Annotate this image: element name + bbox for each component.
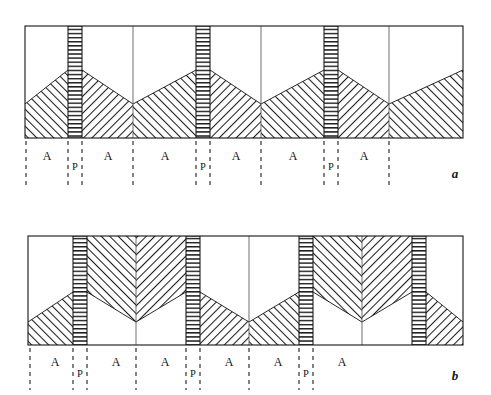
zone-label-a: A <box>104 149 113 163</box>
zone-label-p: P <box>200 161 206 172</box>
zone-label-p: P <box>328 161 334 172</box>
p-band <box>186 236 200 345</box>
zone-label-a: A <box>43 149 52 163</box>
zone-label-a: A <box>289 149 298 163</box>
zone-label-p: P <box>77 368 83 379</box>
zone-label-p: P <box>72 161 78 172</box>
zone-label-a: A <box>274 355 283 369</box>
panel-letter-b: b <box>452 368 459 383</box>
p-band <box>324 26 338 138</box>
zone-label-a: A <box>51 355 60 369</box>
p-band <box>73 236 87 345</box>
zone-label-a: A <box>232 149 241 163</box>
p-band <box>196 26 210 138</box>
zone-label-a: A <box>225 355 234 369</box>
zone-label-p: P <box>190 368 196 379</box>
panel-letter-a: a <box>452 166 459 181</box>
p-band <box>412 236 426 345</box>
zone-label-p: P <box>303 368 309 379</box>
zone-label-a: A <box>360 149 369 163</box>
p-band <box>68 26 82 138</box>
schematic-figure: A P A A P A A P A a <box>0 0 491 395</box>
zone-label-a: A <box>112 355 121 369</box>
figure-root: A P A A P A A P A a <box>0 0 491 395</box>
zone-label-a: A <box>161 149 170 163</box>
zone-label-a: A <box>161 355 170 369</box>
p-band <box>299 236 313 345</box>
zone-label-a: A <box>338 355 347 369</box>
